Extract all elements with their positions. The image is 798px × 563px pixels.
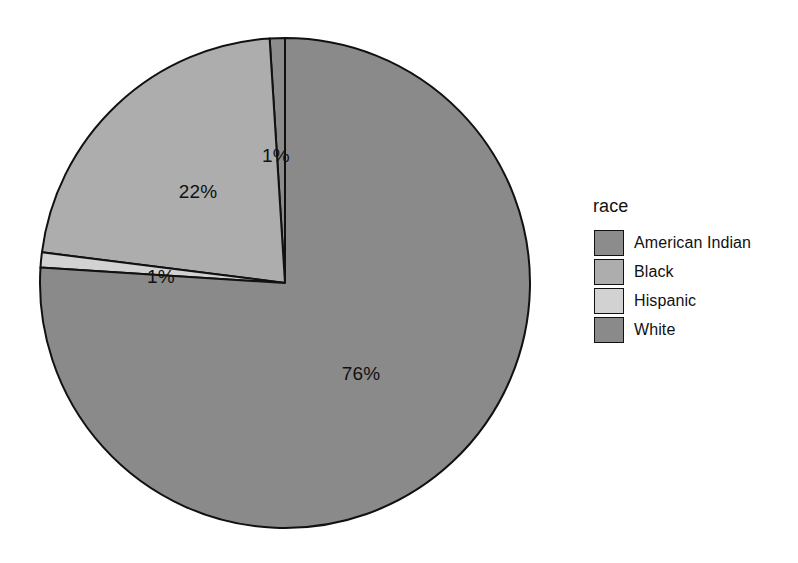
legend-color-swatch	[594, 259, 624, 285]
legend-color-swatch	[594, 288, 624, 314]
pie-slice-group	[40, 38, 530, 528]
legend-color-swatch	[594, 317, 624, 343]
legend-item-label: American Indian	[634, 234, 751, 252]
legend-title: race	[593, 196, 789, 217]
legend-item[interactable]: American Indian	[589, 228, 789, 257]
legend-item-list: American IndianBlackHispanicWhite	[589, 228, 789, 344]
pie-chart-panel: 1%22%1%76%	[0, 0, 570, 563]
legend: race American IndianBlackHispanicWhite	[589, 196, 789, 344]
pie-slice-value-label: 22%	[179, 181, 218, 203]
legend-item[interactable]: Black	[589, 257, 789, 286]
chart-root: 1%22%1%76% race American IndianBlackHisp…	[0, 0, 798, 563]
legend-item-label: Hispanic	[634, 292, 696, 310]
legend-item-label: Black	[634, 263, 674, 281]
pie-slice-value-label: 1%	[147, 266, 175, 288]
pie-slice-value-label: 1%	[262, 145, 290, 167]
legend-item-label: White	[634, 321, 675, 339]
legend-item[interactable]: White	[589, 315, 789, 344]
pie-chart-svg	[0, 0, 570, 563]
pie-slice[interactable]	[42, 38, 285, 283]
legend-color-swatch	[594, 230, 624, 256]
legend-item[interactable]: Hispanic	[589, 286, 789, 315]
pie-slice-value-label: 76%	[342, 363, 381, 385]
